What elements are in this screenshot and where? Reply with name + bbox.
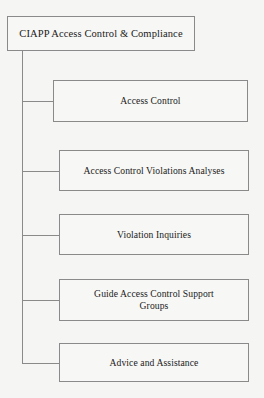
node-access-control-label: Access Control (116, 95, 184, 107)
connector-stub-advice-assistance (22, 363, 60, 364)
node-access-control-violations-analyses: Access Control Violations Analyses (59, 150, 249, 191)
connector-stub-violations-analyses (22, 171, 60, 172)
node-root-ciapp-access-control-compliance: CIAPP Access Control & Compliance (7, 16, 195, 51)
node-violation-inquiries-label: Violation Inquiries (113, 229, 195, 241)
node-support-groups-label: Guide Access Control Support Groups (90, 288, 218, 312)
node-advice-assistance-label: Advice and Assistance (106, 357, 203, 369)
node-guide-access-control-support-groups: Guide Access Control Support Groups (59, 279, 249, 321)
connector-stub-access-control (22, 101, 54, 102)
node-access-control: Access Control (53, 80, 248, 122)
node-violation-inquiries: Violation Inquiries (59, 214, 249, 255)
connector-stub-support-groups (22, 300, 60, 301)
node-root-label: CIAPP Access Control & Compliance (15, 27, 186, 40)
node-advice-and-assistance: Advice and Assistance (59, 343, 249, 382)
trunk-connector-line (22, 50, 23, 363)
node-violations-analyses-label: Access Control Violations Analyses (80, 165, 229, 177)
hierarchy-diagram: CIAPP Access Control & Compliance Access… (0, 0, 264, 398)
connector-stub-violation-inquiries (22, 235, 60, 236)
